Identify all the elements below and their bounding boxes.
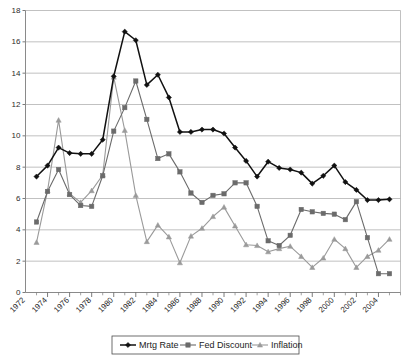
x-tick-label: 2004: [361, 295, 380, 314]
data-point-square: [101, 174, 105, 178]
y-tick-label: 16: [12, 37, 21, 46]
x-axis-group: 1972197419761978198019821984198619881990…: [8, 11, 401, 315]
x-tick-label: 1986: [162, 295, 181, 314]
y-tick-label: 18: [12, 6, 21, 15]
x-tick-label: 1988: [184, 295, 203, 314]
data-point-square: [310, 210, 314, 214]
data-point-square: [186, 343, 190, 347]
data-point-triangle: [34, 240, 39, 245]
data-point-square: [354, 199, 358, 203]
y-tick-label: 8: [16, 163, 21, 172]
data-point-square: [266, 239, 270, 243]
data-point-square: [112, 129, 116, 133]
legend-label: Fed Discount: [199, 340, 253, 350]
data-point-triangle: [133, 193, 138, 198]
data-point-square: [211, 193, 215, 197]
data-point-square: [299, 207, 303, 211]
data-point-square: [343, 217, 347, 221]
series-line: [37, 77, 390, 267]
data-point-triangle: [56, 118, 61, 123]
data-point-square: [45, 189, 49, 193]
data-point-square: [89, 204, 93, 208]
data-point-square: [233, 181, 237, 185]
data-point-triangle: [288, 244, 293, 249]
data-point-square: [145, 117, 149, 121]
data-point-diamond: [78, 151, 83, 156]
series-line: [37, 81, 390, 274]
y-tick-label: 6: [16, 194, 21, 203]
x-tick-label: 1998: [295, 295, 314, 314]
data-point-square: [376, 272, 380, 276]
data-point-square: [123, 105, 127, 109]
data-point-square: [189, 191, 193, 195]
data-point-square: [288, 233, 292, 237]
data-point-triangle: [232, 223, 237, 228]
data-point-triangle: [332, 237, 337, 242]
legend-label: Inflation: [271, 340, 303, 350]
data-point-square: [387, 272, 391, 276]
data-point-diamond: [177, 129, 182, 134]
data-point-triangle: [122, 128, 127, 133]
line-chart: 024681012141618 197219741976197819801982…: [0, 0, 411, 364]
y-tick-label: 2: [16, 257, 21, 266]
data-point-diamond: [166, 95, 171, 100]
y-tick-label: 14: [12, 69, 21, 78]
data-point-square: [222, 192, 226, 196]
data-point-square: [321, 211, 325, 215]
x-tick-label: 1972: [8, 295, 27, 314]
data-point-diamond: [199, 127, 204, 132]
data-point-square: [34, 220, 38, 224]
x-tick-label: 1990: [206, 295, 225, 314]
data-point-square: [156, 156, 160, 160]
series-line: [37, 32, 390, 200]
y-tick-label: 12: [12, 100, 21, 109]
data-point-square: [332, 212, 336, 216]
series-group: [34, 29, 392, 276]
x-tick-label: 1996: [273, 295, 292, 314]
data-point-square: [56, 167, 60, 171]
data-point-square: [365, 235, 369, 239]
data-point-square: [244, 181, 248, 185]
data-point-triangle: [365, 254, 370, 259]
data-point-triangle: [387, 237, 392, 242]
y-tick-label: 4: [16, 225, 21, 234]
chart-container: 024681012141618 197219741976197819801982…: [0, 0, 411, 364]
y-axis-group: 024681012141618: [12, 6, 26, 297]
x-tick-label: 2002: [339, 295, 358, 314]
data-point-square: [255, 204, 259, 208]
series-fed-discount: [34, 79, 391, 276]
data-point-triangle: [221, 205, 226, 210]
legend-label: Mrtg Rate: [139, 340, 179, 350]
data-point-diamond: [387, 197, 392, 202]
data-point-diamond: [67, 150, 72, 155]
data-point-triangle: [155, 223, 160, 228]
data-point-square: [134, 79, 138, 83]
x-tick-label: 1978: [74, 295, 93, 314]
data-point-square: [167, 152, 171, 156]
data-point-diamond: [188, 129, 193, 134]
data-point-square: [78, 203, 82, 207]
x-tick-label: 1980: [96, 295, 115, 314]
x-tick-label: 1976: [52, 295, 71, 314]
data-point-square: [178, 170, 182, 174]
x-tick-label: 1982: [118, 295, 137, 314]
x-tick-label: 1984: [140, 295, 159, 314]
data-point-square: [277, 243, 281, 247]
data-point-triangle: [321, 255, 326, 260]
data-point-square: [67, 192, 71, 196]
data-point-diamond: [210, 127, 215, 132]
data-point-square: [200, 200, 204, 204]
chart-legend: Mrtg RateFed DiscountInflation: [112, 336, 303, 354]
x-tick-label: 1992: [229, 295, 248, 314]
series-mrtg-rate: [34, 29, 392, 203]
x-tick-label: 1994: [251, 295, 270, 314]
x-tick-label: 2000: [317, 295, 336, 314]
y-tick-label: 10: [12, 131, 21, 140]
data-point-diamond: [288, 167, 293, 172]
x-tick-label: 1974: [30, 295, 49, 314]
